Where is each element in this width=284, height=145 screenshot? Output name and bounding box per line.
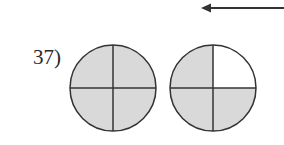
- circle-whole-1: [70, 45, 156, 131]
- arrow-left-icon: [201, 4, 284, 13]
- circle-whole-2: [170, 45, 256, 131]
- fraction-figure: [0, 0, 284, 145]
